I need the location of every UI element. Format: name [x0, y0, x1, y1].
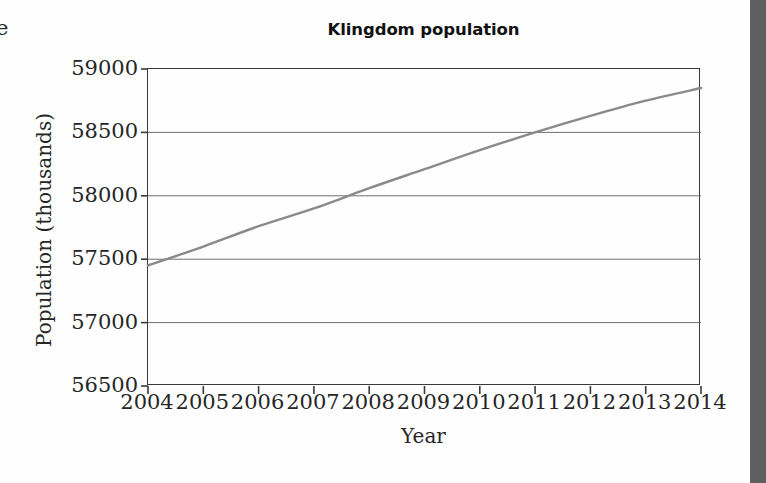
y-tick-label: 58500	[71, 121, 138, 142]
plot-svg	[148, 69, 701, 386]
plot-area	[147, 68, 700, 385]
page-edge-shadow	[750, 0, 766, 483]
x-tick-label: 2008	[338, 392, 398, 413]
x-tick-label: 2007	[283, 392, 343, 413]
x-tick-label: 2010	[449, 392, 509, 413]
y-tick-label: 58000	[71, 185, 138, 206]
y-axis-tick-marks	[141, 69, 148, 386]
x-tick-label: 2006	[228, 392, 288, 413]
y-tick-label: 57500	[71, 248, 138, 269]
x-tick-label: 2013	[615, 392, 675, 413]
line-chart-figure: Klingdom population Population (thousand…	[0, 0, 750, 483]
x-tick-label: 2005	[172, 392, 232, 413]
y-tick-label: 59000	[71, 58, 138, 79]
x-tick-label: 2009	[394, 392, 454, 413]
x-tick-label: 2004	[117, 392, 177, 413]
y-axis-title: Population (thousands)	[32, 100, 56, 360]
chart-title: Klingdom population	[147, 20, 700, 39]
x-axis-title: Year	[147, 424, 700, 448]
x-tick-label: 2012	[559, 392, 619, 413]
x-tick-label: 2011	[504, 392, 564, 413]
x-tick-label: 2014	[670, 392, 730, 413]
data-series-line	[148, 88, 701, 266]
y-tick-label: 57000	[71, 312, 138, 333]
gridlines	[148, 132, 701, 322]
x-axis-tick-labels: 2004200520062007200820092010201120122013…	[0, 392, 750, 422]
